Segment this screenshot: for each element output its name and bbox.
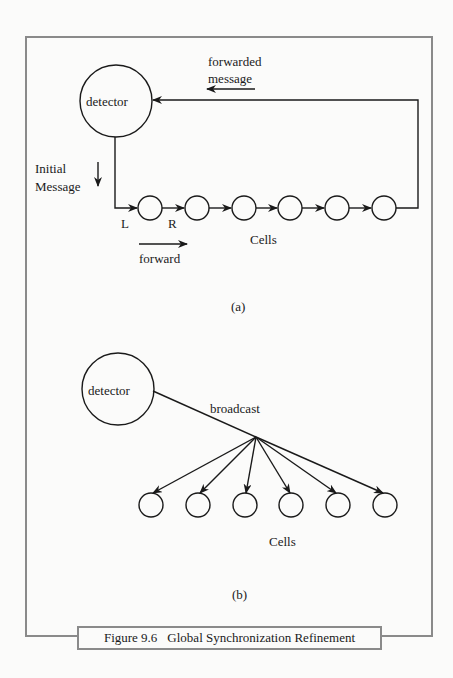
sublabel-a: (a) (231, 300, 245, 313)
figure-caption: Figure 9.6 Global Synchronization Refine… (77, 626, 382, 650)
detector-label-b: detector (88, 384, 130, 397)
detector-label-a: detector (86, 95, 128, 108)
right-port-label: R (168, 217, 177, 230)
cells-label-a: Cells (250, 233, 277, 246)
cells-row-b (139, 493, 397, 517)
figure-frame (26, 37, 432, 636)
forwarded-message-path (153, 100, 418, 208)
figure-number: Figure 9.6 (104, 630, 157, 646)
forward-label: forward (139, 252, 180, 265)
broadcast-label: broadcast (210, 402, 260, 415)
forwarded-label-line1: forwarded (208, 55, 261, 68)
forwarded-label-line2: message (208, 72, 252, 85)
initial-label-line1: Initial (35, 162, 66, 175)
figure-title: Global Synchronization Refinement (167, 630, 355, 646)
sublabel-b: (b) (232, 588, 247, 601)
initial-label-line2: Message (35, 180, 81, 193)
left-port-label: L (121, 217, 129, 230)
cells-label-b: Cells (269, 535, 296, 548)
broadcast-fan (153, 437, 383, 493)
initial-message-path (115, 137, 137, 208)
diagram-canvas (0, 0, 453, 678)
